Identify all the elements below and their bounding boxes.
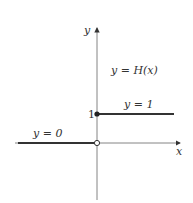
- diagram-canvas: y x 1 y = H(x) y = 1 y = 0: [0, 0, 193, 203]
- y-tick-one: 1: [88, 108, 95, 121]
- closed-point: [94, 111, 99, 116]
- x-axis-label: x: [176, 145, 183, 158]
- function-title: y = H(x): [110, 64, 158, 77]
- segment-label-y1: y = 1: [123, 98, 153, 111]
- open-point: [94, 140, 99, 145]
- y-axis-label: y: [83, 24, 91, 37]
- segment-label-y0: y = 0: [32, 127, 62, 140]
- heaviside-step-diagram: y x 1 y = H(x) y = 1 y = 0: [0, 0, 193, 203]
